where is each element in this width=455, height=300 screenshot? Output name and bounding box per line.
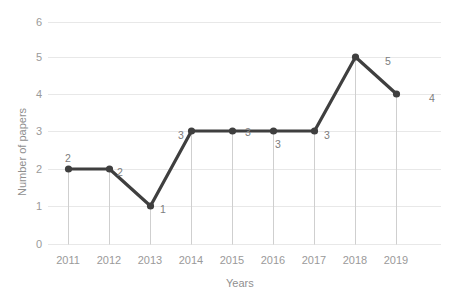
- y-tick-6: 6: [20, 16, 42, 28]
- x-tick-2014: 2014: [171, 254, 211, 266]
- x-tick-2016: 2016: [253, 254, 293, 266]
- data-point-2013: [147, 202, 154, 209]
- data-point-2019: [393, 90, 400, 97]
- line-chart: 6 5 4 3 2 1 0 2011 2012 2013 2014 2015 2…: [0, 0, 455, 300]
- x-tick-2013: 2013: [130, 254, 170, 266]
- value-label-2019: 4: [429, 92, 435, 104]
- data-point-2011: [65, 165, 72, 172]
- x-axis-title: Years: [226, 277, 254, 289]
- data-point-2014: [188, 127, 195, 134]
- x-tick-2011: 2011: [48, 254, 88, 266]
- data-point-2016: [270, 127, 277, 134]
- x-tick-2012: 2012: [89, 254, 129, 266]
- y-tick-4: 4: [20, 88, 42, 100]
- value-label-2014: 3: [178, 129, 184, 141]
- data-point-2017: [311, 127, 318, 134]
- y-axis-title: Number of papers: [16, 108, 28, 196]
- y-tick-0: 0: [20, 238, 42, 250]
- y-tick-1: 1: [20, 200, 42, 212]
- value-label-2017: 3: [324, 129, 330, 141]
- y-tick-5: 5: [20, 51, 42, 63]
- data-point-2018: [352, 53, 359, 60]
- value-label-2016: 3: [275, 138, 281, 150]
- data-point-2015: [229, 127, 236, 134]
- x-tick-2017: 2017: [294, 254, 334, 266]
- x-tick-2015: 2015: [212, 254, 252, 266]
- x-tick-2018: 2018: [335, 254, 375, 266]
- value-label-2012: 2: [117, 166, 123, 178]
- data-point-2012: [106, 165, 113, 172]
- x-tick-2019: 2019: [376, 254, 416, 266]
- value-label-2018: 5: [385, 55, 391, 67]
- value-label-2015: 3: [245, 126, 251, 138]
- value-label-2011: 2: [65, 152, 71, 164]
- value-label-2013: 1: [160, 203, 166, 215]
- droplines: [69, 57, 397, 245]
